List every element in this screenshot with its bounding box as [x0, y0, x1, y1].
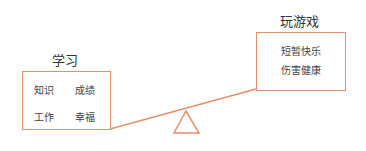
left-title: 学习 — [52, 50, 78, 69]
left-item: 知识 — [34, 82, 54, 97]
right-item: 伤害健康 — [257, 62, 345, 77]
left-box: 知识 成绩 工作 幸福 — [22, 71, 111, 130]
fulcrum-triangle — [174, 111, 199, 133]
right-item: 短暂快乐 — [257, 43, 345, 58]
seesaw-beam — [110, 89, 256, 129]
left-item: 工作 — [34, 109, 54, 124]
right-title: 玩游戏 — [280, 11, 319, 30]
left-item: 幸福 — [75, 109, 95, 124]
left-item: 成绩 — [75, 82, 95, 97]
right-box: 短暂快乐 伤害健康 — [256, 32, 346, 91]
